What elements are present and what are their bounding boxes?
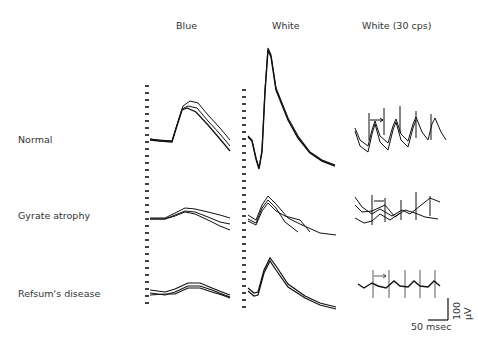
trace-gyrate-white: [248, 196, 336, 235]
trace-refsum-white: [248, 258, 336, 309]
trace-normal-white: [248, 48, 335, 169]
scale-bar-time-label: 50 msec: [411, 321, 451, 332]
scale-bar-amplitude-label: 100 μV: [451, 293, 473, 320]
erg-figure: [0, 0, 478, 347]
trace-gyrate-blue: [150, 208, 230, 230]
trace-refsum-30cps: [358, 270, 440, 298]
trace-normal-blue: [150, 101, 230, 151]
trace-normal-30cps: [355, 106, 446, 152]
blue-marker-column: [145, 86, 149, 303]
trace-refsum-blue: [150, 283, 230, 298]
scale-bar: [428, 298, 448, 320]
trace-gyrate-30cps: [355, 192, 440, 225]
white-marker-column: [242, 90, 246, 307]
